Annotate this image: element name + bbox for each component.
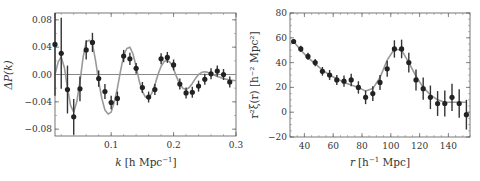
data-point xyxy=(127,53,132,65)
data-point xyxy=(202,74,207,85)
data-point xyxy=(442,91,447,117)
data-point xyxy=(190,87,195,98)
left-tick-labels: 0.10.20.30.080.040.00−0.04−0.08 xyxy=(24,15,243,150)
data-point xyxy=(363,91,368,105)
data-point xyxy=(90,33,95,52)
data-point xyxy=(356,81,361,93)
data-point xyxy=(208,68,213,79)
x-tick-label: 0.2 xyxy=(166,140,180,150)
data-point xyxy=(196,81,201,92)
data-point xyxy=(435,91,440,116)
y-tick-label: 40 xyxy=(276,58,288,68)
y-tick-label: −20 xyxy=(268,132,287,142)
right-data-points xyxy=(291,39,469,130)
figure: 0.10.20.30.080.040.00−0.04−0.08 k[h Mpc−… xyxy=(0,0,480,181)
y-tick-label: −0.08 xyxy=(24,124,52,134)
left-model-curve xyxy=(55,40,236,114)
x-tick-label: 120 xyxy=(411,141,428,151)
right-x-axis-label: r[h−1 Mpc] xyxy=(350,156,410,168)
data-point xyxy=(291,39,296,44)
data-point xyxy=(406,53,411,73)
data-point xyxy=(327,70,332,80)
data-point xyxy=(52,13,57,96)
data-point xyxy=(421,77,426,99)
x-tick-label: 80 xyxy=(356,141,368,151)
data-point xyxy=(464,100,469,130)
y-tick-label: −0.04 xyxy=(24,97,52,107)
y-tick-label: 0 xyxy=(281,107,287,117)
left-x-axis-label: k[h Mpc−1] xyxy=(115,156,176,168)
data-point xyxy=(392,40,397,57)
x-tick-label: 40 xyxy=(299,141,311,151)
data-point xyxy=(449,84,454,111)
y-tick-label: 20 xyxy=(276,82,288,92)
x-tick-label: 60 xyxy=(327,141,339,151)
x-tick-label: 0.3 xyxy=(229,140,244,150)
x-tick-label: 0.1 xyxy=(104,140,118,150)
data-point xyxy=(152,84,157,95)
y-tick-label: 0.04 xyxy=(32,42,52,52)
data-point xyxy=(84,40,89,59)
x-tick-label: 100 xyxy=(382,141,399,151)
power-spectrum-residual-chart: 0.10.20.30.080.040.00−0.04−0.08 k[h Mpc−… xyxy=(2,13,243,168)
data-point xyxy=(102,84,107,99)
data-point xyxy=(457,89,462,118)
correlation-function-chart: 406080100120140806040200−20 r[h−1 Mpc] r… xyxy=(248,8,470,168)
data-point xyxy=(146,92,151,103)
data-point xyxy=(59,18,64,89)
data-point xyxy=(171,59,176,70)
y-tick-label: 60 xyxy=(276,33,288,43)
right-y-axis-label: r²ξ(r) [h⁻² Mpc²] xyxy=(248,31,260,118)
data-point xyxy=(377,75,382,90)
y-tick-label: 80 xyxy=(276,8,288,18)
data-point xyxy=(341,76,346,87)
y-tick-label: 0.00 xyxy=(32,70,52,80)
x-tick-label: 140 xyxy=(440,141,457,151)
right-tick-labels: 406080100120140806040200−20 xyxy=(268,8,457,151)
data-point xyxy=(399,40,404,59)
data-point xyxy=(334,75,339,85)
right-model-curve xyxy=(294,42,467,103)
y-tick-label: 0.08 xyxy=(32,15,52,25)
left-data-points xyxy=(52,13,232,135)
data-point xyxy=(227,77,232,88)
data-point xyxy=(428,86,433,110)
left-y-axis-label: ΔP(k) xyxy=(2,60,14,90)
